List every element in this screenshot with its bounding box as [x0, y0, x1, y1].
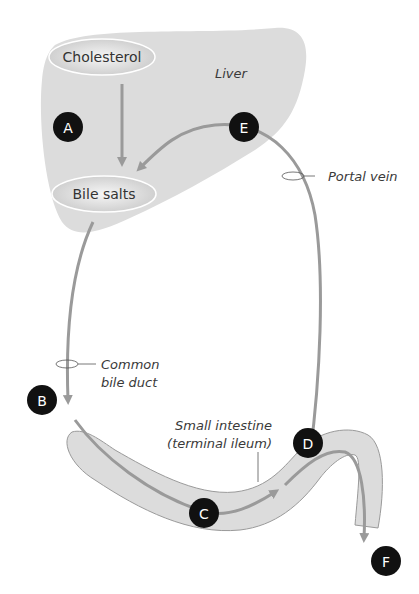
common-bile-duct-label-2: bile duct: [101, 375, 158, 390]
marker-C: C: [189, 498, 219, 528]
marker-E: E: [229, 112, 259, 142]
liver-label: Liver: [215, 66, 249, 81]
cholesterol-label: Cholesterol: [62, 49, 141, 65]
portal-vein-ring: [282, 172, 304, 180]
portal-vein-label: Portal vein: [328, 169, 398, 184]
small-intestine-label-1: Small intestine: [175, 418, 272, 433]
bile-circulation-diagram: Cholesterol Bile salts Liver Portal vein…: [0, 0, 419, 594]
svg-text:C: C: [199, 506, 209, 522]
marker-B: B: [27, 385, 57, 415]
common-bile-duct-path: [67, 222, 93, 400]
svg-text:D: D: [303, 436, 314, 452]
marker-A: A: [53, 112, 83, 142]
bile-salts-label: Bile salts: [73, 186, 136, 202]
common-bile-duct-label-1: Common: [101, 357, 160, 372]
svg-text:B: B: [37, 393, 47, 409]
svg-text:F: F: [382, 554, 390, 570]
marker-D: D: [293, 428, 323, 458]
svg-text:A: A: [63, 120, 73, 136]
svg-text:E: E: [240, 120, 249, 136]
small-intestine-label-2: (terminal ileum): [167, 436, 272, 451]
marker-F: F: [371, 546, 401, 576]
